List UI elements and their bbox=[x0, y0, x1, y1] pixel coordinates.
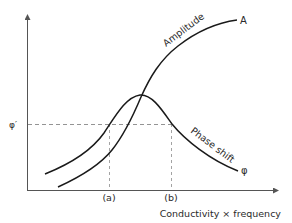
amplitude-curve bbox=[58, 20, 237, 187]
tick-label-a: (a) bbox=[102, 192, 115, 203]
phase-end-label: φ bbox=[241, 165, 248, 176]
tick-label-b: (b) bbox=[164, 192, 177, 203]
amplitude-end-label: A bbox=[240, 15, 247, 26]
x-axis-label: Conductivity × frequency bbox=[160, 208, 282, 219]
phi-prime-label: φ′ bbox=[9, 120, 17, 130]
diagram-canvas: Amplitude Phase shift A φ φ′ (a) (b) Con… bbox=[0, 0, 292, 223]
